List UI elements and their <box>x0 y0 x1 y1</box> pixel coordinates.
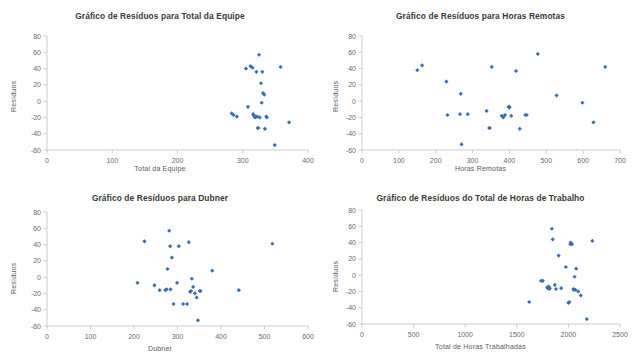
svg-text:0: 0 <box>37 274 41 281</box>
svg-text:40: 40 <box>348 65 356 72</box>
svg-text:600: 600 <box>577 157 589 164</box>
svg-text:1500: 1500 <box>509 331 525 338</box>
svg-text:60: 60 <box>348 49 356 56</box>
svg-text:-20: -20 <box>31 114 41 121</box>
svg-text:80: 80 <box>33 209 41 216</box>
svg-text:0: 0 <box>352 98 356 105</box>
svg-text:0: 0 <box>360 331 364 338</box>
svg-text:500: 500 <box>259 333 271 340</box>
svg-text:0: 0 <box>352 272 356 279</box>
svg-text:0: 0 <box>37 98 41 105</box>
scatter-svg: 0100200300400500600-60-40-20020406080 <box>0 182 320 363</box>
svg-text:60: 60 <box>348 223 356 230</box>
svg-text:80: 80 <box>33 33 41 40</box>
svg-text:300: 300 <box>467 157 479 164</box>
svg-text:2500: 2500 <box>612 331 628 338</box>
svg-text:40: 40 <box>33 65 41 72</box>
svg-text:-40: -40 <box>346 304 356 311</box>
svg-text:0: 0 <box>360 157 364 164</box>
svg-text:400: 400 <box>504 157 516 164</box>
svg-text:100: 100 <box>393 157 405 164</box>
chart-panel-total-horas-trabalho[interactable]: Gráfico de Resíduos do Total de Horas de… <box>320 182 641 363</box>
svg-text:400: 400 <box>215 333 227 340</box>
svg-text:-20: -20 <box>31 290 41 297</box>
plot-area-total-horas-trabalho[interactable]: Resíduos Total de Horas Trabalhadas 0500… <box>320 182 641 363</box>
svg-text:-60: -60 <box>346 147 356 154</box>
plot-area-dubner[interactable]: Resíduos Dubner 0100200300400500600-60-4… <box>0 182 320 363</box>
svg-text:100: 100 <box>106 157 118 164</box>
svg-text:-40: -40 <box>346 130 356 137</box>
plot-area-total-da-equipe[interactable]: Resíduos Total da Equipe 0100200300400-6… <box>0 0 320 182</box>
svg-text:-60: -60 <box>31 323 41 330</box>
svg-text:60: 60 <box>33 225 41 232</box>
svg-text:20: 20 <box>348 81 356 88</box>
svg-text:300: 300 <box>237 157 249 164</box>
chart-panel-total-da-equipe[interactable]: Gráfico de Resíduos para Total da Equipe… <box>0 0 320 182</box>
svg-text:2000: 2000 <box>561 331 577 338</box>
svg-text:20: 20 <box>348 255 356 262</box>
svg-text:-60: -60 <box>31 147 41 154</box>
chart-panel-dubner[interactable]: Gráfico de Resíduos para Dubner Resíduos… <box>0 182 320 363</box>
svg-text:-20: -20 <box>346 114 356 121</box>
svg-text:200: 200 <box>128 333 140 340</box>
svg-text:500: 500 <box>408 331 420 338</box>
svg-text:60: 60 <box>33 49 41 56</box>
svg-text:20: 20 <box>33 257 41 264</box>
svg-text:40: 40 <box>33 241 41 248</box>
svg-text:400: 400 <box>302 157 314 164</box>
svg-text:600: 600 <box>302 333 314 340</box>
scatter-svg: 0100200300400-60-40-20020406080 <box>0 0 320 182</box>
svg-text:-20: -20 <box>346 288 356 295</box>
svg-text:0: 0 <box>45 333 49 340</box>
svg-text:700: 700 <box>614 157 626 164</box>
svg-text:-60: -60 <box>346 321 356 328</box>
residual-plots-grid: Gráfico de Resíduos para Total da Equipe… <box>0 0 641 363</box>
svg-text:-40: -40 <box>31 306 41 313</box>
svg-text:20: 20 <box>33 81 41 88</box>
svg-text:-40: -40 <box>31 130 41 137</box>
svg-text:500: 500 <box>540 157 552 164</box>
svg-text:40: 40 <box>348 239 356 246</box>
svg-text:80: 80 <box>348 33 356 40</box>
scatter-svg: 0100200300400500600700-60-40-20020406080 <box>320 0 641 182</box>
svg-text:200: 200 <box>172 157 184 164</box>
scatter-svg: 05001000150020002500-60-40-20020406080 <box>320 182 641 363</box>
svg-text:300: 300 <box>172 333 184 340</box>
svg-text:0: 0 <box>45 157 49 164</box>
svg-text:200: 200 <box>430 157 442 164</box>
chart-panel-horas-remotas[interactable]: Gráfico de Resíduos para Horas Remotas R… <box>320 0 641 182</box>
plot-area-horas-remotas[interactable]: Resíduos Horas Remotas 01002003004005006… <box>320 0 641 182</box>
svg-text:100: 100 <box>85 333 97 340</box>
svg-text:1000: 1000 <box>457 331 473 338</box>
svg-text:80: 80 <box>348 207 356 214</box>
